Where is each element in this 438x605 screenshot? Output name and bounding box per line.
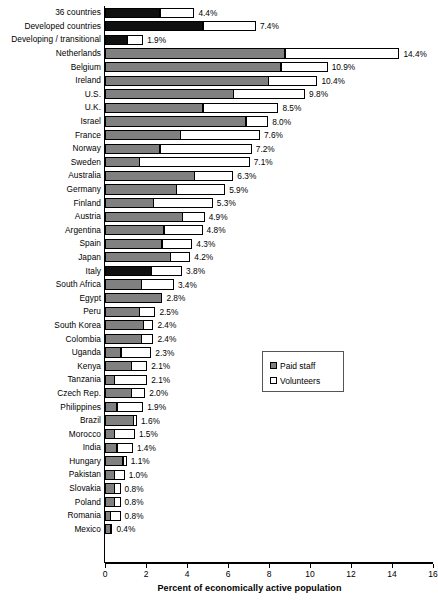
x-axis-tick <box>351 564 352 568</box>
bar-segment-volunteers <box>153 198 212 208</box>
bar-value-label: 4.8% <box>207 225 226 235</box>
bar-segment-volunteers <box>139 307 155 317</box>
bar-value-label: 9.8% <box>309 89 328 99</box>
bar-row: Slovakia0.8% <box>0 482 437 496</box>
bar-segment-volunteers <box>139 157 250 167</box>
bar-segment-volunteers <box>268 76 317 86</box>
bar-row-label: Peru <box>0 307 101 316</box>
bar-segment-volunteers <box>160 144 252 154</box>
bar-segment-volunteers <box>121 347 152 357</box>
bar-row: Israel8.0% <box>0 115 437 129</box>
bar-segments: 3.4% <box>105 279 437 289</box>
bar-segment-paid-staff <box>105 103 203 113</box>
bar-row-label: Czech Rep. <box>0 389 101 398</box>
bar-value-label: 1.1% <box>131 456 150 466</box>
bar-row: Morocco1.5% <box>0 427 437 441</box>
bar-row: Argentina4.8% <box>0 224 437 238</box>
bar-segments: 4.3% <box>105 239 437 249</box>
bar-segments: 1.9% <box>105 35 437 45</box>
bar-segment-paid-staff <box>105 252 171 262</box>
bar-row: Belgium10.9% <box>0 60 437 74</box>
x-axis-tick-label: 6 <box>226 569 231 579</box>
bar-row: Poland0.8% <box>0 495 437 509</box>
bar-segments: 7.4% <box>105 21 437 31</box>
bar-segment-paid-staff <box>105 130 181 140</box>
bar-segment-paid-staff <box>105 307 140 317</box>
bar-segments: 4.9% <box>105 212 437 222</box>
bar-row-label: Ireland <box>0 76 101 85</box>
bar-value-label: 0.4% <box>116 524 135 534</box>
x-axis-tick-label: 8 <box>267 569 272 579</box>
bar-value-label: 1.5% <box>139 429 158 439</box>
bar-segment-volunteers <box>114 497 120 507</box>
bar-row: Romania0.8% <box>0 509 437 523</box>
bar-row: 36 countries4.4% <box>0 6 437 20</box>
bar-row: Ireland10.4% <box>0 74 437 88</box>
bar-row: France7.6% <box>0 128 437 142</box>
legend-item-paid-staff: Paid staff <box>270 358 343 373</box>
bar-segments: 6.3% <box>105 171 437 181</box>
bar-row: Finland5.3% <box>0 196 437 210</box>
bar-segment-paid-staff <box>105 225 164 235</box>
bar-segment-volunteers <box>117 443 133 453</box>
bar-segment-volunteers <box>194 171 233 181</box>
bar-segments: 2.4% <box>105 320 437 330</box>
bar-segment-volunteers <box>143 320 153 330</box>
bar-row: Kenya2.1% <box>0 359 437 373</box>
bar-segments: 3.8% <box>105 266 437 276</box>
bar-segments: 10.4% <box>105 76 437 86</box>
x-axis-tick <box>310 564 311 568</box>
bar-row-label: France <box>0 131 101 140</box>
bar-value-label: 7.6% <box>264 130 283 140</box>
bar-row-label: Poland <box>0 498 101 507</box>
bar-row-label: Germany <box>0 185 101 194</box>
bar-segment-paid-staff <box>105 443 117 453</box>
legend-swatch-paid-staff-icon <box>270 362 277 369</box>
bar-row: Sweden7.1% <box>0 156 437 170</box>
bar-row: Peru2.5% <box>0 305 437 319</box>
bar-row-label: Morocco <box>0 430 101 439</box>
bar-segments: 1.4% <box>105 443 437 453</box>
bar-value-label: 2.1% <box>151 361 170 371</box>
bar-row-label: Finland <box>0 199 101 208</box>
bar-segment-volunteers <box>141 334 153 344</box>
bar-row-label: Austria <box>0 212 101 221</box>
bar-segment-paid-staff <box>105 116 246 126</box>
bar-value-label: 0.8% <box>125 497 144 507</box>
bar-segments: 4.4% <box>105 8 437 18</box>
bar-segments: 2.8% <box>105 293 437 303</box>
bar-row-label: Netherlands <box>0 49 101 58</box>
bar-value-label: 2.4% <box>157 320 176 330</box>
bar-row-label: Norway <box>0 144 101 153</box>
x-axis-tick-label: 2 <box>144 569 149 579</box>
bar-segments: 4.8% <box>105 225 437 235</box>
bar-row: Norway7.2% <box>0 142 437 156</box>
legend-label-paid-staff: Paid staff <box>280 361 315 371</box>
bar-row-label: Romania <box>0 511 101 520</box>
bar-segments: 7.1% <box>105 157 437 167</box>
legend-swatch-volunteers-icon <box>270 377 277 384</box>
x-axis-tick-label: 16 <box>428 569 437 579</box>
x-axis-title: Percent of economically active populatio… <box>0 583 437 593</box>
bar-segment-paid-staff <box>105 89 234 99</box>
bar-segments: 7.2% <box>105 144 437 154</box>
bar-segment-volunteers <box>131 388 145 398</box>
bar-segment-volunteers <box>141 279 174 289</box>
bar-segment-paid-staff <box>105 402 117 412</box>
bar-segment-volunteers <box>162 239 193 249</box>
bar-row-label: Spain <box>0 239 101 248</box>
bar-row: Austria4.9% <box>0 210 437 224</box>
bar-value-label: 2.3% <box>155 348 174 358</box>
bar-segment-volunteers <box>123 456 127 466</box>
bar-segments: 1.0% <box>105 470 437 480</box>
bar-value-label: 1.0% <box>129 470 148 480</box>
bar-value-label: 8.5% <box>282 103 301 113</box>
bar-row: Developing / transitional1.9% <box>0 33 437 47</box>
bar-segment-volunteers <box>114 375 147 385</box>
bar-segments: 1.6% <box>105 415 437 425</box>
bar-segment-volunteers <box>203 21 256 31</box>
bar-value-label: 4.3% <box>196 239 215 249</box>
x-axis-tick <box>433 564 434 568</box>
bar-value-label: 4.2% <box>194 252 213 262</box>
bar-segment-paid-staff <box>105 320 144 330</box>
